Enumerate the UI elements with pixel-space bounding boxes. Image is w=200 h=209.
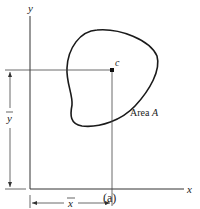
area-label-prefix: Area (130, 107, 152, 118)
y-bar-label: y (6, 112, 12, 124)
figure-caption: (a) (103, 191, 116, 206)
y-axis-label: y (27, 2, 33, 14)
centroid-diagram: y x c Area A y x (0, 0, 200, 209)
centroid-point (110, 68, 114, 72)
figure-caption-text: (a) (103, 191, 116, 205)
centroid-label: c (115, 57, 120, 68)
x-bar-label: x (67, 197, 73, 209)
x-axis-label: x (186, 183, 192, 195)
area-label: Area A (130, 107, 159, 118)
area-label-var: A (151, 107, 159, 118)
